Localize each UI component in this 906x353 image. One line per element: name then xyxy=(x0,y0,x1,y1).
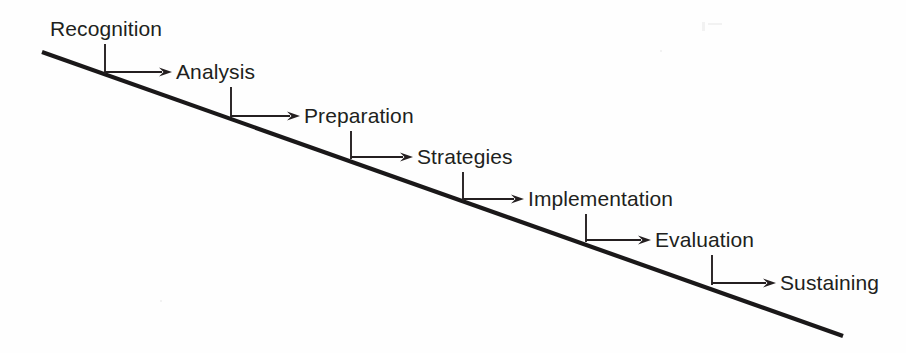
diagram-background xyxy=(0,0,906,353)
stage-label-sustaining: Sustaining xyxy=(780,271,879,294)
process-flow-diagram: RecognitionAnalysisPreparationStrategies… xyxy=(0,0,906,353)
stage-label-analysis: Analysis xyxy=(176,60,255,83)
stage-label-recognition: Recognition xyxy=(50,17,162,40)
stage-label-preparation: Preparation xyxy=(304,104,414,127)
stage-label-evaluation: Evaluation xyxy=(655,228,754,251)
stage-label-strategies: Strategies xyxy=(417,145,513,168)
stage-label-implementation: Implementation xyxy=(528,187,673,210)
diagram-canvas: RecognitionAnalysisPreparationStrategies… xyxy=(0,0,906,353)
stage-sustaining: Sustaining xyxy=(780,271,879,294)
